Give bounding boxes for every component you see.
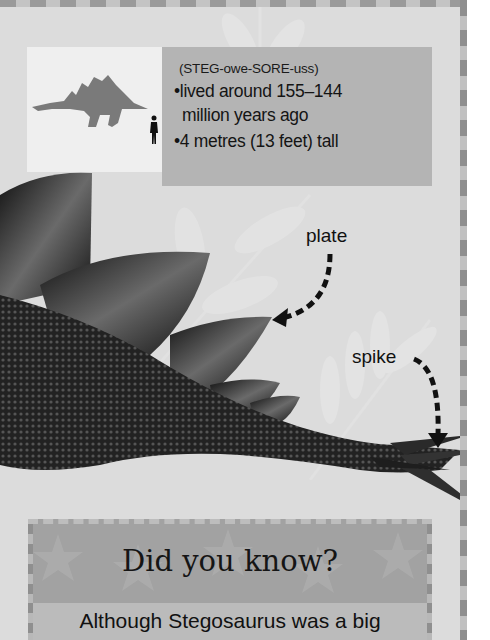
did-you-know-body: Although Stegosaurus was a big xyxy=(28,603,432,640)
pronunciation: (STEG-owe-SORE-uss) xyxy=(179,61,318,76)
book-page: (STEG-owe-SORE-uss) •lived around 155–14… xyxy=(0,0,460,640)
did-you-know-box: Did you know? Although Stegosaurus was a… xyxy=(28,519,432,640)
fact-lived: •lived around 155–144 xyxy=(174,81,342,102)
size-comparison-panel xyxy=(27,47,162,172)
did-you-know-text: Although Stegosaurus was a big xyxy=(28,609,432,633)
did-you-know-header: Did you know? xyxy=(28,519,432,603)
fact-text: lived around 155–144 xyxy=(180,81,342,101)
did-you-know-title: Did you know? xyxy=(28,544,432,578)
human-scale-icon xyxy=(149,115,159,145)
spike-pointer-arrow-icon xyxy=(410,355,450,450)
spike-label: spike xyxy=(352,346,396,368)
plate-pointer-arrow-icon xyxy=(270,252,340,327)
plate-label: plate xyxy=(306,225,347,247)
fact-height: •4 metres (13 feet) tall xyxy=(174,131,338,152)
right-dashed-border xyxy=(460,0,467,640)
fact-text: 4 metres (13 feet) tall xyxy=(180,131,338,151)
fact-lived-continuation: million years ago xyxy=(182,105,308,126)
top-dashed-border xyxy=(0,0,467,7)
stegosaurus-silhouette-icon xyxy=(30,65,150,135)
